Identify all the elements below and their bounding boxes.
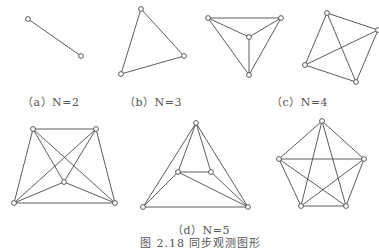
station-node [31, 127, 36, 132]
edge [279, 159, 301, 206]
graph-n4-quad [303, 11, 379, 85]
station-node [277, 157, 282, 162]
edge [208, 18, 249, 37]
panel-c-caption: （c）N=4 [271, 93, 328, 109]
station-node [119, 72, 124, 77]
edge [279, 159, 346, 206]
edge [305, 65, 356, 82]
station-node [209, 170, 214, 175]
station-node [247, 73, 252, 78]
station-node [344, 204, 349, 209]
station-node [206, 16, 211, 21]
graph-n5-trapezoid [12, 127, 118, 206]
station-node [26, 17, 31, 22]
station-node [247, 35, 252, 40]
edge [279, 121, 322, 159]
station-node [246, 205, 251, 210]
graph-n2 [26, 17, 84, 59]
edge [14, 129, 96, 203]
edge [143, 172, 178, 207]
edge [143, 123, 196, 207]
edge [208, 18, 249, 75]
station-node [139, 7, 144, 12]
station-node [141, 205, 146, 210]
edge [301, 121, 322, 206]
edge [305, 30, 378, 65]
station-node [194, 121, 199, 126]
edge [305, 13, 327, 65]
edge [96, 129, 115, 203]
edge [121, 9, 141, 74]
edge [14, 182, 64, 203]
station-node [79, 54, 84, 59]
edge [141, 9, 184, 56]
graph-n3 [119, 7, 187, 77]
edge [33, 129, 115, 203]
station-node [176, 170, 181, 175]
edge [33, 129, 64, 182]
graph-n4-triangle [206, 16, 284, 78]
station-node [62, 180, 67, 185]
station-node [113, 201, 118, 206]
station-node [325, 11, 330, 16]
station-node [299, 204, 304, 209]
edge [196, 123, 211, 172]
edge [28, 19, 81, 56]
edge [14, 129, 33, 203]
edge [322, 121, 364, 159]
graph-n5-pentagon [277, 119, 367, 209]
panel-b-caption: （b）N=3 [124, 93, 182, 109]
panel-a-caption: （a）N=2 [22, 93, 79, 109]
station-node [354, 80, 359, 85]
edge [64, 182, 115, 203]
edge [249, 18, 281, 37]
edge [121, 56, 184, 74]
edge [322, 121, 346, 206]
edge [249, 18, 281, 75]
edge [64, 129, 96, 182]
station-node [376, 28, 379, 33]
station-node [12, 201, 17, 206]
station-node [362, 157, 367, 162]
edge [356, 30, 378, 82]
station-node [94, 127, 99, 132]
graph-n5-triangle [141, 121, 251, 210]
figure-caption: 图 2.18 同步观测图形 [140, 234, 262, 250]
station-node [320, 119, 325, 124]
station-node [303, 63, 308, 68]
edge [327, 13, 378, 30]
station-node [182, 54, 187, 59]
station-node [279, 16, 284, 21]
